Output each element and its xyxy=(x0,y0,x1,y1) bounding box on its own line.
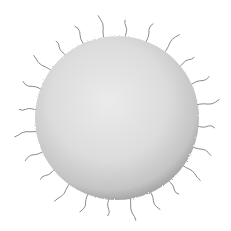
hair-projection xyxy=(197,126,215,128)
hair-projection xyxy=(98,16,104,39)
hair-projection xyxy=(80,193,89,212)
hair-projection xyxy=(145,24,153,44)
hair-projection xyxy=(130,197,136,220)
hair-projection xyxy=(25,151,44,161)
hair-projection xyxy=(164,35,180,53)
hair-projection xyxy=(150,191,160,210)
cell-body xyxy=(35,36,199,200)
hair-projection xyxy=(182,165,200,181)
cell-illustration xyxy=(0,0,231,231)
hair-projection xyxy=(168,180,179,194)
hair-projection xyxy=(55,183,71,201)
hair-projection xyxy=(56,41,66,56)
hair-projection xyxy=(190,77,209,86)
hair-projection xyxy=(34,56,52,72)
hair-projection xyxy=(15,131,38,137)
hair-projection xyxy=(192,146,211,155)
hair-projection xyxy=(23,81,42,89)
hair-projection xyxy=(41,169,56,180)
hair-projection xyxy=(108,198,110,216)
hair-projection xyxy=(179,57,194,67)
hair-projection xyxy=(19,109,37,111)
hair-projection xyxy=(196,99,219,105)
hair-projection xyxy=(75,26,84,45)
hair-projection xyxy=(125,20,127,38)
